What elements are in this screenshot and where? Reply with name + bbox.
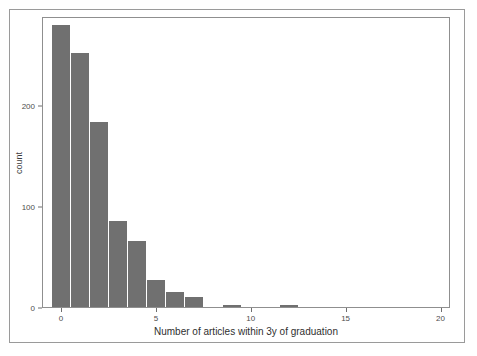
x-axis-tick-label: 0 [59,314,63,323]
plot-panel [42,17,450,308]
x-axis-tick-label: 10 [246,314,255,323]
x-axis: 05101520 [42,308,450,328]
x-axis-tick-mark [61,308,62,312]
x-axis-tick-label: 20 [436,314,445,323]
x-axis-tick-label: 5 [154,314,158,323]
x-axis-title-label: Number of articles within 3y of graduati… [154,326,338,337]
histogram-bar [52,25,70,307]
histogram-bar [71,53,89,307]
x-axis-tick-mark [251,308,252,312]
y-axis-tick-label: 0 [31,304,35,313]
y-axis-tick-label: 100 [22,202,35,211]
x-axis-tick-mark [156,308,157,312]
x-axis-title: Number of articles within 3y of graduati… [42,326,450,337]
histogram-bar [128,241,146,307]
y-axis: 0100200 [0,17,42,308]
x-axis-tick-mark [441,308,442,312]
histogram-bar [90,122,108,307]
y-axis-tick-label: 200 [22,101,35,110]
histogram-bar [109,221,127,307]
x-axis-tick-label: 15 [341,314,350,323]
histogram-bar [166,292,184,307]
bars-layer [43,18,449,307]
histogram-bar [223,305,241,307]
histogram-bar [185,297,203,307]
histogram-bar [280,305,298,307]
x-axis-tick-mark [346,308,347,312]
histogram-bar [147,280,165,307]
figure-container: count 0100200 05101520 Number of article… [0,0,477,356]
